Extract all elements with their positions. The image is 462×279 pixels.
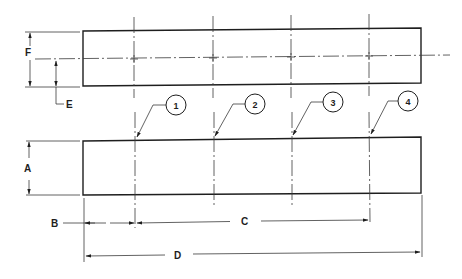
dimension-a: A: [24, 141, 80, 195]
hole-4-centerline-front: [369, 112, 370, 222]
dimension-d: D: [86, 250, 420, 261]
balloon-3-label: 3: [330, 98, 335, 108]
balloon-2: 2: [215, 94, 265, 136]
balloon-1-label: 1: [173, 101, 178, 111]
dimension-f-label: F: [25, 47, 31, 58]
balloon-3: 3: [293, 92, 343, 135]
balloon-4: 4: [371, 91, 418, 134]
dimension-f: F: [25, 32, 80, 87]
dimension-e: E: [56, 61, 73, 110]
front-view: [83, 112, 421, 228]
dimension-b: B: [51, 218, 134, 229]
dimension-d-label: D: [174, 250, 181, 261]
dimension-a-label: A: [24, 163, 31, 174]
dimension-c-label: C: [241, 216, 248, 227]
technical-drawing: F E 1 2 3 4 A: [0, 0, 462, 279]
top-view-horizontal-centerline: [35, 55, 450, 59]
balloon-4-label: 4: [405, 97, 410, 107]
dimension-e-label: E: [66, 99, 73, 110]
dimension-b-label: B: [51, 218, 58, 229]
balloon-2-label: 2: [252, 100, 257, 110]
dimension-c: C: [137, 216, 368, 227]
balloon-1: 1: [137, 95, 186, 137]
front-view-outline: [83, 137, 421, 195]
top-view: [35, 14, 450, 98]
